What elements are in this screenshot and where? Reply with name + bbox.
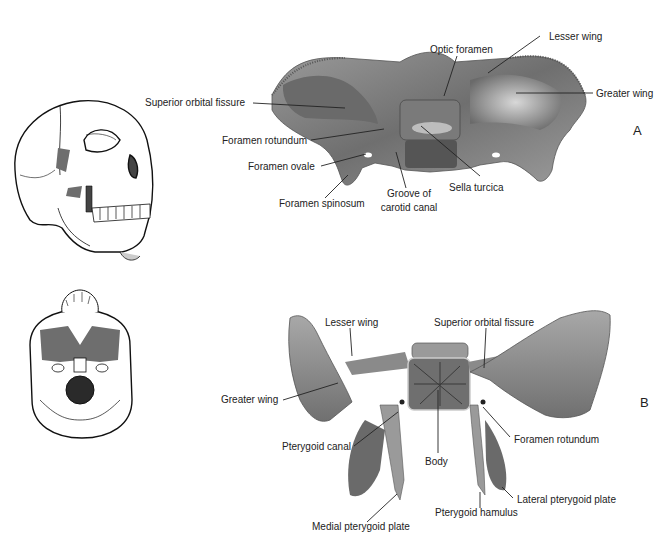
- label-foramen-rotundum-a: Foramen rotundum: [222, 135, 307, 146]
- panel-letter-b: B: [640, 395, 649, 410]
- label-optic-foramen: Optic foramen: [430, 44, 493, 55]
- label-medial-pterygoid-plate: Medial pterygoid plate: [312, 521, 410, 532]
- sphenoid-anterior-view: [289, 311, 610, 500]
- label-pterygoid-hamulus: Pterygoid hamulus: [435, 507, 518, 518]
- label-sella-turcica: Sella turcica: [449, 182, 503, 193]
- label-pterygoid-canal: Pterygoid canal: [282, 441, 351, 452]
- label-groove-carotid-canal-1: Groove of: [377, 188, 441, 199]
- label-greater-wing-b: Greater wing: [221, 394, 278, 405]
- label-lateral-pterygoid-plate: Lateral pterygoid plate: [517, 494, 616, 505]
- label-superior-orbital-fissure-b: Superior orbital fissure: [434, 317, 534, 328]
- label-foramen-ovale: Foramen ovale: [248, 161, 315, 172]
- label-superior-orbital-fissure-a: Superior orbital fissure: [145, 97, 245, 108]
- sphenoid-illustration: [0, 0, 668, 544]
- label-groove-carotid-canal-2: carotid canal: [372, 202, 446, 213]
- label-foramen-rotundum-b: Foramen rotundum: [514, 434, 599, 445]
- label-body: Body: [425, 456, 448, 467]
- label-lesser-wing-b: Lesser wing: [325, 317, 378, 328]
- inferior-skull-icon: [30, 290, 132, 438]
- panel-letter-a: A: [633, 123, 642, 138]
- sphenoid-superior-view: [272, 52, 586, 185]
- label-greater-wing-a: Greater wing: [596, 88, 653, 99]
- lateral-skull-icon: [15, 101, 153, 260]
- label-lesser-wing-a: Lesser wing: [549, 31, 602, 42]
- label-foramen-spinosum: Foramen spinosum: [279, 198, 365, 209]
